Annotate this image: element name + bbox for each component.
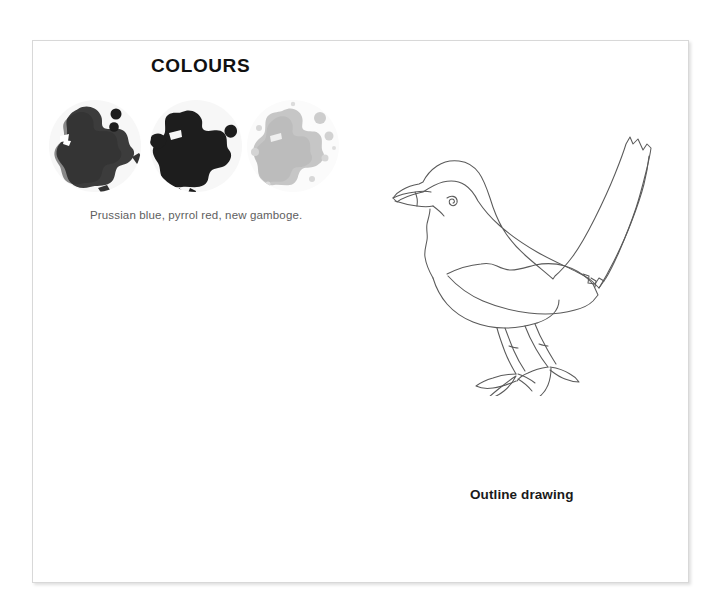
outline-drawing-label: Outline drawing	[470, 487, 574, 502]
colour-swatch-new-gamboge	[246, 96, 342, 196]
colour-swatch-row	[48, 96, 358, 201]
page-sheet: COLOURS	[32, 40, 689, 583]
bird-outline-drawing	[385, 106, 675, 396]
page-title: COLOURS	[151, 55, 250, 77]
colour-swatch-caption: Prussian blue, pyrrol red, new gamboge.	[90, 209, 302, 221]
colour-swatch-prussian-blue	[48, 96, 144, 196]
colour-swatch-pyrrol-red	[149, 96, 245, 196]
